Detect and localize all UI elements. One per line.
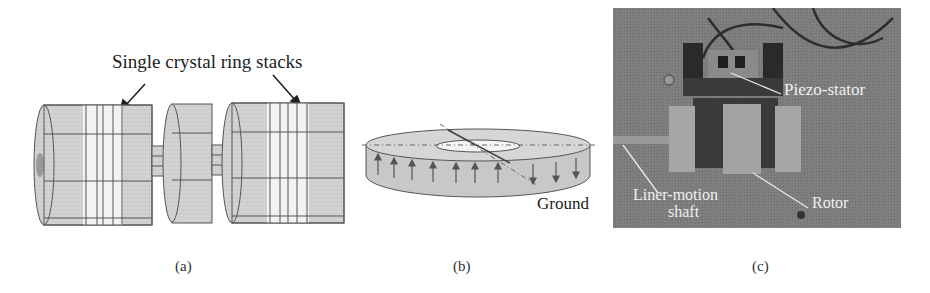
ring-stack-model [0, 0, 360, 240]
annotation-piezo-stator: Piezo-stator [784, 80, 865, 100]
panel-b: Ground [360, 80, 610, 230]
annotation-shaft: shaft [668, 203, 699, 221]
annotation-liner-motion: Liner-motion [633, 186, 718, 204]
annotation-ground: Ground [537, 194, 589, 214]
panel-a: Single crystal ring stacks [0, 0, 360, 240]
panel-c-photo: Piezo-stator Liner-motion shaft Rotor [613, 8, 901, 228]
annotation-rotor: Rotor [812, 194, 848, 212]
caption-b: (b) [453, 258, 471, 275]
caption-c: (c) [752, 258, 769, 275]
caption-a: (a) [175, 258, 192, 275]
